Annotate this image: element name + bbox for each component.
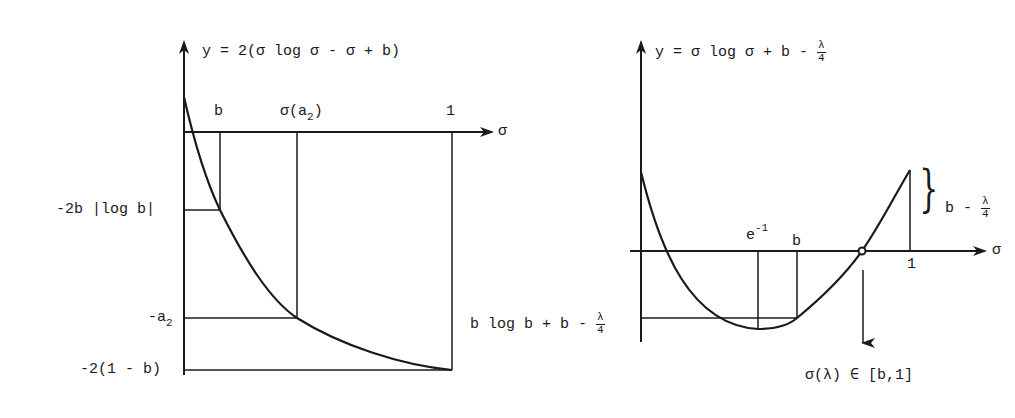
left-tick-one: 1 — [446, 104, 455, 119]
left-level-label-2-1-b: -2(1 - b) — [80, 362, 161, 377]
brace-fraction: λ4 — [981, 196, 990, 220]
left-graph-title: y = 2(σ log σ - σ + b) — [202, 44, 400, 59]
left-graph — [184, 42, 492, 375]
left-x-axis-label: σ — [498, 124, 507, 139]
right-brace-label: b - λ4 — [945, 196, 990, 220]
right-tick-e-inv: e-1 — [746, 228, 768, 243]
right-x-axis-label: σ — [992, 243, 1001, 258]
root-label: σ(λ) ∈ [b,1] — [805, 368, 913, 383]
right-min-label: b log b + b - λ4 — [470, 312, 605, 336]
min-fraction: λ4 — [596, 312, 605, 336]
left-curve — [184, 97, 452, 370]
left-tick-b: b — [214, 104, 223, 119]
brace-icon: } — [919, 164, 938, 214]
left-level-label-a2: -a2 — [148, 310, 173, 325]
title-fraction: λ4 — [817, 40, 826, 64]
right-curve — [641, 170, 910, 329]
left-level-label-2blogb: -2b |log b| — [56, 202, 155, 217]
right-tick-one: 1 — [907, 257, 916, 272]
right-graph-title: y = σ log σ + b - λ4 — [655, 40, 826, 64]
right-tick-b: b — [792, 234, 801, 249]
root-point — [859, 248, 866, 255]
left-tick-sigma-a2: σ(a2) — [280, 104, 323, 119]
